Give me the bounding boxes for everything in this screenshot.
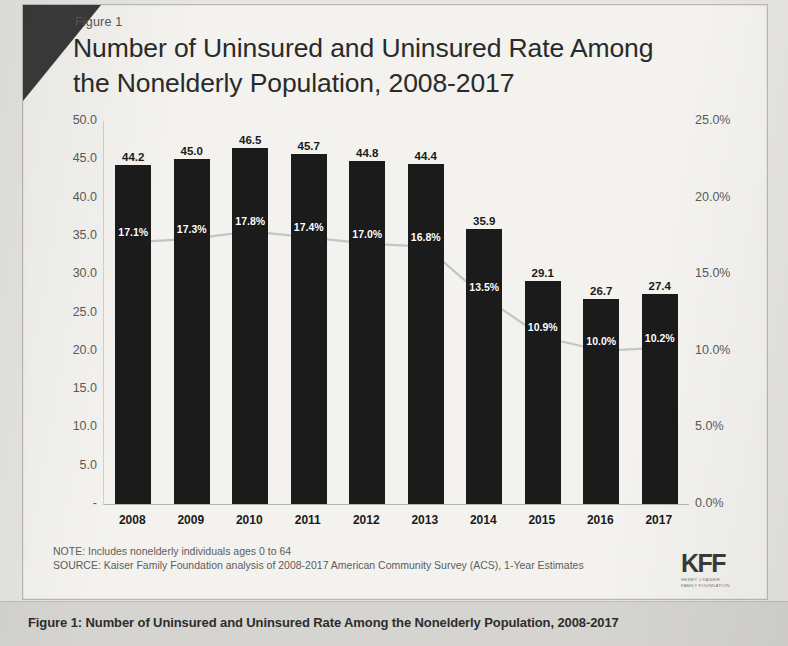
kff-logo: KFF HENRY J KAISER FAMILY FOUNDATION [681, 551, 749, 589]
right-tick-15.0%: 15.0% [695, 266, 730, 280]
figure-caption-bar: Figure 1: Number of Uninsured and Uninsu… [0, 601, 788, 646]
combo-chart: 50.045.040.035.030.025.020.015.010.05.0-… [51, 113, 751, 533]
figure-number-label: Figure 1 [75, 15, 122, 29]
left-tick--: - [93, 496, 97, 510]
bar-value-label-2013: 44.4 [397, 150, 456, 162]
bar-2017 [642, 294, 678, 504]
right-tick-20.0%: 20.0% [695, 190, 730, 204]
right-tick-5.0%: 5.0% [695, 419, 724, 433]
bar-2012 [349, 161, 385, 504]
rate-value-label-2013: 16.8% [397, 231, 456, 243]
x-label-2014: 2014 [454, 513, 513, 527]
plot-area: 44.245.046.545.744.844.435.929.126.727.4… [103, 121, 689, 505]
x-label-2011: 2011 [279, 513, 338, 527]
page-title: Number of Uninsured and Uninsured Rate A… [73, 31, 733, 101]
kff-sub-line-2: FAMILY FOUNDATION [681, 583, 749, 588]
bar-value-label-2014: 35.9 [455, 215, 514, 227]
scanned-figure-page: Figure 1 Number of Uninsured and Uninsur… [0, 0, 788, 646]
page-title-line-1: Number of Uninsured and Uninsured Rate A… [73, 31, 733, 66]
bar-2010 [232, 148, 268, 504]
bar-value-label-2008: 44.2 [104, 151, 163, 163]
bar-2008 [115, 165, 151, 504]
bar-value-label-2012: 44.8 [338, 147, 397, 159]
left-tick-15.0: 15.0 [73, 381, 97, 395]
rate-value-label-2010: 17.8% [221, 215, 280, 227]
right-axis-tick-labels: 25.0%20.0%15.0%10.0%5.0%0.0% [695, 113, 751, 533]
left-tick-10.0: 10.0 [73, 419, 97, 433]
x-label-2016: 2016 [571, 513, 630, 527]
right-tick-25.0%: 25.0% [695, 113, 730, 127]
left-tick-25.0: 25.0 [73, 305, 97, 319]
left-tick-35.0: 35.0 [73, 228, 97, 242]
footnote-block: NOTE: Includes nonelderly individuals ag… [53, 545, 593, 572]
figure-caption-text: Figure 1: Number of Uninsured and Uninsu… [28, 615, 619, 630]
x-label-2013: 2013 [396, 513, 455, 527]
bar-value-label-2016: 26.7 [572, 285, 631, 297]
left-tick-20.0: 20.0 [73, 343, 97, 357]
bar-value-label-2017: 27.4 [631, 280, 690, 292]
source-line: SOURCE: Kaiser Family Foundation analysi… [53, 559, 593, 573]
figure-sheet: Figure 1 Number of Uninsured and Uninsur… [22, 4, 768, 600]
left-axis-tick-labels: 50.045.040.035.030.025.020.015.010.05.0- [51, 113, 97, 533]
page-title-line-2: the Nonelderly Population, 2008-2017 [73, 66, 733, 101]
bar-2016 [583, 299, 619, 504]
x-label-2015: 2015 [513, 513, 572, 527]
bar-2011 [291, 154, 327, 504]
bar-value-label-2010: 46.5 [221, 134, 280, 146]
rate-value-label-2017: 10.2% [631, 332, 690, 344]
right-tick-10.0%: 10.0% [695, 343, 730, 357]
left-tick-50.0: 50.0 [73, 113, 97, 127]
bar-2015 [525, 281, 561, 504]
left-tick-5.0: 5.0 [80, 458, 97, 472]
bar-2014 [466, 229, 502, 504]
left-tick-40.0: 40.0 [73, 190, 97, 204]
rate-value-label-2016: 10.0% [572, 335, 631, 347]
kff-sub-line-1: HENRY J KAISER [681, 577, 749, 582]
left-tick-30.0: 30.0 [73, 266, 97, 280]
left-tick-45.0: 45.0 [73, 151, 97, 165]
note-line: NOTE: Includes nonelderly individuals ag… [53, 545, 593, 559]
bar-2009 [174, 159, 210, 504]
x-label-2017: 2017 [630, 513, 689, 527]
x-label-2010: 2010 [220, 513, 279, 527]
x-label-2012: 2012 [337, 513, 396, 527]
bar-value-label-2015: 29.1 [514, 267, 573, 279]
kff-wordmark: KFF [681, 551, 749, 576]
rate-value-label-2009: 17.3% [163, 223, 222, 235]
rate-value-label-2008: 17.1% [104, 226, 163, 238]
x-label-2008: 2008 [103, 513, 162, 527]
rate-value-label-2011: 17.4% [280, 221, 339, 233]
bar-value-label-2009: 45.0 [163, 145, 222, 157]
bar-2013 [408, 164, 444, 504]
bar-value-label-2011: 45.7 [280, 140, 339, 152]
rate-value-label-2012: 17.0% [338, 228, 397, 240]
x-label-2009: 2009 [162, 513, 221, 527]
x-axis-year-labels: 2008200920102011201220132014201520162017 [103, 509, 689, 531]
rate-value-label-2014: 13.5% [455, 281, 514, 293]
right-tick-0.0%: 0.0% [695, 496, 724, 510]
rate-value-label-2015: 10.9% [514, 321, 573, 333]
